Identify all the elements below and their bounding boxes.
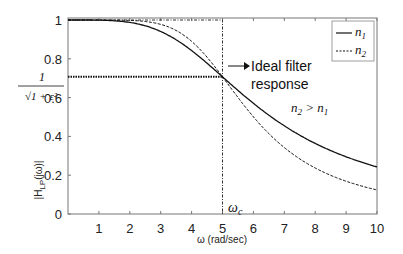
x-tick-label: 2: [126, 221, 133, 236]
svg-text:1: 1: [39, 70, 45, 84]
x-tick-label: 8: [312, 221, 319, 236]
y-tick-label: 1: [55, 13, 62, 28]
cutoff-label: ωc: [228, 200, 243, 217]
y-tick-labels: 00.20.40.60.81: [44, 13, 62, 222]
x-axis-label: ω (rad/sec): [197, 234, 247, 245]
order-annotation: n2 > n1: [291, 100, 328, 117]
x-tick-label: 9: [342, 221, 349, 236]
x-tick-label: 1: [95, 221, 102, 236]
x-tick-label: 6: [250, 221, 257, 236]
y-tick-label: 0.4: [44, 129, 62, 144]
ideal-filter-annotation: Ideal filter response: [228, 58, 312, 92]
plot-area: [68, 18, 377, 214]
x-tick-label: 10: [370, 221, 384, 236]
svg-text:response: response: [251, 76, 309, 92]
svg-text:Ideal filter: Ideal filter: [251, 58, 312, 74]
y-axis-label: |HLP(jω)|: [33, 161, 47, 200]
x-tick-label: 3: [157, 221, 164, 236]
svg-text:√1 + ε²: √1 + ε²: [25, 90, 58, 102]
y-tick-label: 0: [55, 207, 62, 222]
x-tick-label: 4: [188, 221, 195, 236]
x-tick-label: 7: [281, 221, 288, 236]
y-tick-label: 0.8: [44, 52, 62, 67]
chart: 00.20.40.60.81 12345678910 1 √1 + ε² |HL…: [0, 0, 403, 254]
legend: n1 n2: [332, 21, 374, 61]
